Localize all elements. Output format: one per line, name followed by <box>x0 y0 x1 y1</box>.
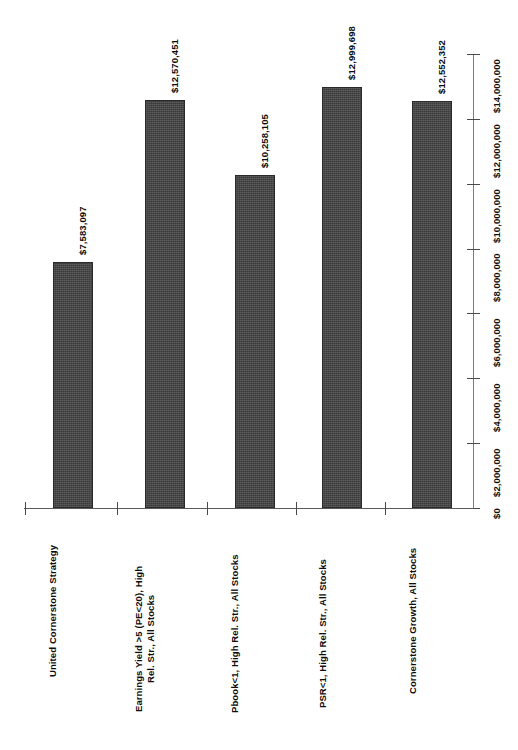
category-label-1: Earnings Yield >5 (PE<20), High Rel. Str… <box>133 566 157 712</box>
category-label-3-line-0: PSR<1, High Rel. Str., All Stocks <box>317 559 328 708</box>
value-axis-label-2: $4,000,000 <box>491 383 502 432</box>
category-label-2-line-0: Pbook<1, High Rel. Str., All Stocks <box>229 554 240 713</box>
category-axis-tick-2 <box>207 502 208 515</box>
bar-1 <box>145 100 185 508</box>
bar-value-label-1: $12,570,451 <box>169 39 180 93</box>
value-axis-tick-5 <box>467 184 480 185</box>
value-axis-tick-2 <box>467 378 480 379</box>
chart-page: $0 $2,000,000 $4,000,000 $6,000,000 $8,0… <box>0 0 518 750</box>
bar-0 <box>53 262 93 508</box>
category-label-4: Cornerstone Growth, All Stocks <box>407 548 419 694</box>
category-label-1-line-1: Rel. Str., All Stocks <box>145 566 157 712</box>
bar-value-label-2: $10,258,105 <box>259 114 270 168</box>
category-axis-tick-3 <box>296 502 297 515</box>
bar-value-label-4: $12,552,352 <box>436 40 447 94</box>
bar-2 <box>235 175 275 508</box>
category-axis-tick-0 <box>25 502 26 515</box>
category-label-1-line-0: Earnings Yield >5 (PE<20), High <box>133 566 144 712</box>
category-axis-line <box>24 508 474 509</box>
value-axis-tick-6 <box>467 119 480 120</box>
bar-value-label-0: $7,583,097 <box>77 206 88 255</box>
category-label-0-line-0: United Cornerstone Strategy <box>47 545 58 677</box>
bar-4 <box>412 101 452 508</box>
value-axis-label-1: $2,000,000 <box>491 448 502 497</box>
value-axis-tick-3 <box>467 313 480 314</box>
category-axis-tick-1 <box>117 502 118 515</box>
bar-value-label-3: $12,999,698 <box>346 26 357 80</box>
category-label-3: PSR<1, High Rel. Str., All Stocks <box>317 559 329 708</box>
value-axis-label-0: $0 <box>491 508 502 519</box>
category-label-4-line-0: Cornerstone Growth, All Stocks <box>407 548 418 694</box>
category-axis-tick-4 <box>385 502 386 515</box>
value-axis-label-6: $12,000,000 <box>491 124 502 178</box>
value-axis-label-3: $6,000,000 <box>491 318 502 367</box>
value-axis-label-7: $14,000,000 <box>491 59 502 113</box>
category-label-0: United Cornerstone Strategy <box>47 545 59 677</box>
value-axis-label-4: $8,000,000 <box>491 253 502 302</box>
value-axis-label-5: $10,000,000 <box>491 189 502 243</box>
bar-3 <box>322 87 362 508</box>
category-label-2: Pbook<1, High Rel. Str., All Stocks <box>229 554 241 713</box>
value-axis-line <box>473 54 474 509</box>
value-axis-tick-7 <box>467 54 480 55</box>
value-axis-tick-1 <box>467 443 480 444</box>
value-axis-tick-4 <box>467 249 480 250</box>
